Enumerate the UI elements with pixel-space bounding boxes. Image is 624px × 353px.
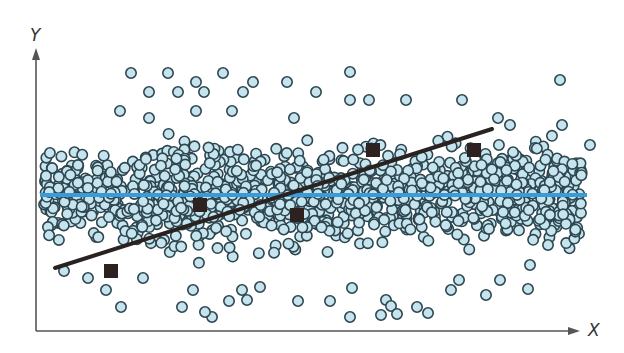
data-point [302,135,312,145]
data-point [524,205,534,215]
data-point [83,183,93,193]
data-point [139,180,149,190]
data-point [295,156,305,166]
x-axis-label: X [588,320,600,340]
data-point [73,178,83,188]
data-point [481,290,491,300]
data-point [138,273,148,283]
data-point [218,68,228,78]
data-point [547,131,557,141]
data-point [266,220,276,230]
data-point [282,77,292,87]
sample-point [193,198,207,212]
data-point [311,87,321,97]
data-point [188,285,198,295]
data-point [348,154,358,164]
data-point [345,67,355,77]
data-point [498,207,508,217]
data-point [255,282,265,292]
data-point [510,207,520,217]
data-point [227,106,237,116]
data-point [176,203,186,213]
data-point [285,164,295,174]
data-point [144,87,154,97]
data-point [555,75,565,85]
data-point [505,120,515,130]
data-point [170,164,180,174]
data-point [233,144,243,154]
data-point [205,158,215,168]
data-point [364,95,374,105]
data-point [446,285,456,295]
data-point [557,120,567,130]
data-point [493,113,503,123]
data-point [237,285,247,295]
data-point [489,174,499,184]
data-point [501,165,511,175]
data-point [559,176,569,186]
data-point [141,154,151,164]
data-point [318,154,328,164]
data-point [101,285,111,295]
data-point [206,199,216,209]
sample-point [290,208,304,222]
data-point [194,258,204,268]
data-point [111,176,121,186]
data-point [200,307,210,317]
data-point [54,172,64,182]
data-point [156,161,166,171]
data-point [224,296,234,306]
data-point [401,95,411,105]
sample-point [104,264,118,278]
data-point [224,242,234,252]
data-point [495,275,505,285]
data-point [452,229,462,239]
data-point [272,167,282,177]
data-point [336,179,346,189]
x-axis-arrow-icon [568,327,580,335]
data-point [345,95,355,105]
data-point [212,177,222,187]
data-point [137,222,147,232]
data-point [163,68,173,78]
data-point [337,143,347,153]
data-point [106,167,116,177]
data-point [254,212,264,222]
data-point [116,302,126,312]
data-point [500,218,510,228]
data-point [354,198,364,208]
data-point [570,225,580,235]
data-point [354,217,364,227]
data-point [558,209,568,219]
data-point [345,312,355,322]
data-point [289,113,299,123]
data-point [453,168,463,178]
data-point [92,166,102,176]
data-point [508,147,518,157]
data-point [238,87,248,97]
data-point [423,236,433,246]
data-point [176,241,186,251]
data-point [457,95,467,105]
data-point [177,302,187,312]
data-point [144,113,154,123]
data-point [98,150,108,160]
data-point [428,162,438,172]
data-point [199,87,209,97]
data-point [56,151,66,161]
data-point [535,214,545,224]
data-point [93,232,103,242]
y-axis-arrow-icon [32,48,40,60]
data-point [338,156,348,166]
data-point [548,166,558,176]
data-point [514,225,524,235]
data-point [191,106,201,116]
data-point [567,159,577,169]
data-point [414,214,424,224]
data-point [77,150,87,160]
data-point [382,175,392,185]
data-point [232,166,242,176]
data-point [297,222,307,232]
data-point [576,198,586,208]
data-point [423,308,433,318]
